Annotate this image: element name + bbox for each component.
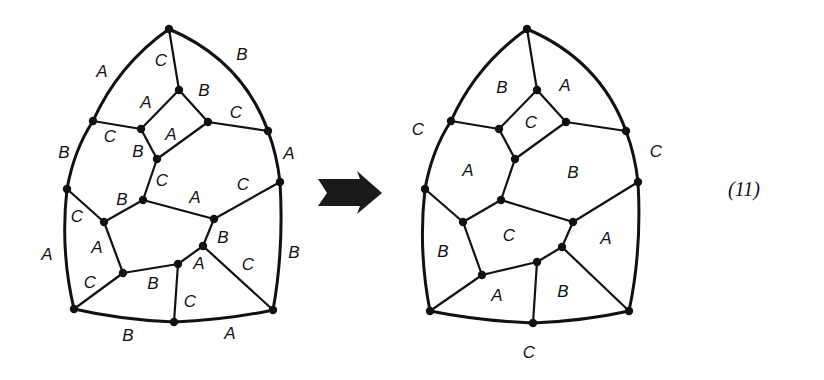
right-color-label: A [558,76,570,95]
right-vertex [426,307,434,315]
diagram-canvas: ACBABCCABBACBACCABACBACBCBA BACCABCCABAB… [0,0,824,380]
left-edge [143,200,214,219]
right-color-label: B [557,282,568,301]
left-color-label: B [217,228,228,247]
left-color-label: A [139,93,151,112]
right-edge [463,200,501,222]
left-vertex [165,25,173,33]
right-vertex [529,319,537,327]
right-outer-edge [430,311,533,323]
right-edge [451,121,499,129]
right-vertex [459,218,467,226]
left-outer-edge [74,309,174,322]
left-color-label: A [192,254,204,273]
left-edge [203,246,273,310]
equation-number: (11) [728,178,760,201]
right-outer-edge [533,311,629,323]
left-outer-edge [67,121,93,189]
left-color-label: B [147,274,158,293]
left-color-label: C [184,292,197,311]
right-edge [501,159,515,200]
right-outer-edge [425,121,451,189]
left-vertex [63,185,71,193]
left-color-label: C [84,273,97,292]
right-edge [566,122,626,131]
left-edge [93,121,141,129]
left-vertex [276,178,284,186]
left-vertex [174,260,182,268]
left-vertex [264,127,272,135]
left-color-label: C [237,175,250,194]
right-edge [562,247,629,311]
right-outer-edge [527,29,626,131]
right-vertex [421,185,429,193]
left-color-label: A [164,125,176,144]
left-outer-edge [174,310,273,322]
left-vertex [139,196,147,204]
left-edge [74,273,123,309]
left-color-label: C [155,51,168,70]
right-vertex [447,117,455,125]
right-color-label: A [461,161,473,180]
left-color-label: B [58,143,69,162]
left-color-label: A [223,324,235,343]
right-color-label: B [437,242,448,261]
right-vertex [478,271,486,279]
left-vertex [269,306,277,314]
right-edge [501,200,573,222]
right-edge [537,247,562,262]
right-vertex [569,218,577,226]
left-edge [174,264,178,322]
right-vertex [511,155,519,163]
left-edge [104,222,123,273]
right-vertex [495,125,503,133]
right-color-label: C [412,120,425,139]
left-color-label: C [104,127,117,146]
left-vertex [137,125,145,133]
left-color-label: B [132,142,143,161]
right-color-label: A [490,286,502,305]
left-color-label: A [95,62,107,81]
left-color-label: A [90,238,102,257]
left-vertex [199,242,207,250]
left-color-label: C [230,103,243,122]
right-edge [463,222,482,275]
left-color-label: B [198,81,209,100]
left-color-label: B [116,190,127,209]
right-edge [430,275,482,311]
right-color-label: C [503,226,516,245]
right-vertex [622,127,630,135]
right-outer-edge [629,182,639,311]
right-vertex [523,25,531,33]
left-outer-edge [273,182,281,310]
left-outer-edge [169,29,268,131]
right-color-label: B [567,163,578,182]
left-color-label: A [282,144,294,163]
right-outer-edge [626,131,638,182]
left-edge [169,29,179,90]
left-color-label: C [156,171,169,190]
right-outer-edge [451,29,527,121]
right-edge [573,182,638,222]
left-color-label: A [188,188,200,207]
right-vertex [533,258,541,266]
right-vertex [634,178,642,186]
right-vertex [533,86,541,94]
left-vertex [153,155,161,163]
left-edge [203,219,214,246]
left-vertex [204,118,212,126]
left-color-label: B [288,243,299,262]
right-color-label: C [650,142,663,161]
right-edge [425,189,463,222]
left-edge-colored-map: ACBABCCABBACBACCABACBACBCBA [40,25,299,346]
left-vertex [170,318,178,326]
right-edge [499,129,515,159]
left-color-label: B [236,45,247,64]
transform-arrow-icon [318,171,382,214]
left-outer-edge [268,131,280,182]
left-vertex [210,215,218,223]
right-face-colored-map: BACCABCCABABC [412,25,663,363]
right-vertex [625,307,633,315]
left-vertex [70,305,78,313]
right-color-label: C [525,113,538,132]
